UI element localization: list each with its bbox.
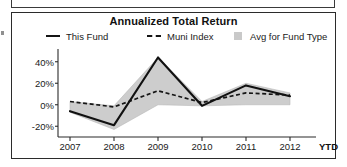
legend-item-this-fund: This Fund bbox=[46, 29, 108, 43]
chart-title: Annualized Total Return bbox=[12, 15, 335, 27]
x-tick-label: 2009 bbox=[147, 141, 168, 152]
legend-item-muni-index: Muni Index bbox=[147, 29, 213, 43]
previous-panel-bottom-edge bbox=[11, 0, 335, 8]
y-tick-label: 0% bbox=[20, 99, 54, 110]
chart-plot-svg bbox=[58, 51, 316, 137]
x-tick-label: 2011 bbox=[236, 141, 256, 152]
legend-label-this-fund: This Fund bbox=[66, 31, 108, 42]
y-axis-tick-labels: 40%20%0%-20% bbox=[16, 51, 54, 137]
plot-area bbox=[58, 51, 316, 137]
x-tick-label: 2010 bbox=[191, 141, 212, 152]
y-tick-label: 40% bbox=[20, 56, 54, 67]
chart-legend: This Fund Muni Index Avg for Fund Type bbox=[12, 29, 335, 43]
x-tick-label: 2007 bbox=[59, 141, 80, 152]
x-axis-tick-labels: 200720082009201020112012 bbox=[58, 141, 316, 155]
y-tick-label: 20% bbox=[20, 78, 54, 89]
legend-label-avg-for-fund-type: Avg for Fund Type bbox=[250, 31, 327, 42]
x-axis-ytd-label: YTD bbox=[319, 141, 338, 152]
dashed-line-swatch-icon bbox=[147, 35, 161, 37]
legend-label-muni-index: Muni Index bbox=[167, 31, 213, 42]
x-tick-label: 2012 bbox=[279, 141, 300, 152]
x-tick-label: 2008 bbox=[103, 141, 124, 152]
edge-artifact bbox=[1, 31, 4, 35]
annualized-total-return-chart-card: Annualized Total Return This Fund Muni I… bbox=[11, 12, 336, 159]
solid-line-swatch-icon bbox=[46, 35, 60, 37]
filled-square-swatch-icon bbox=[234, 32, 242, 40]
legend-item-avg-for-fund-type: Avg for Fund Type bbox=[234, 29, 327, 43]
y-tick-label: -20% bbox=[20, 121, 54, 132]
